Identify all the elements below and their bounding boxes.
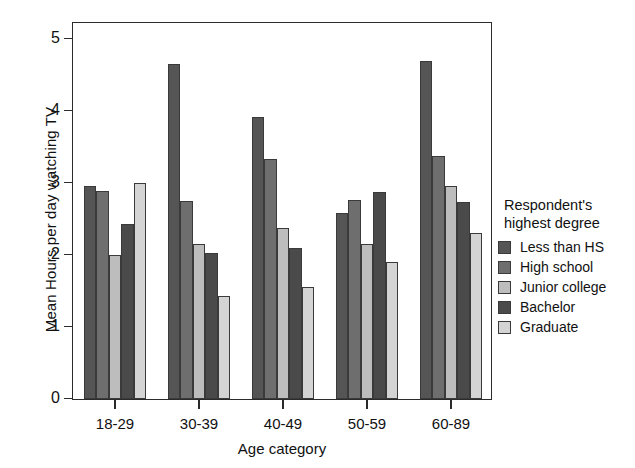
y-axis-tick-label: 5 xyxy=(51,28,60,48)
y-axis-tick-mark xyxy=(64,254,73,255)
x-axis-tick-label: 18-29 xyxy=(70,415,160,432)
y-axis-tick-mark xyxy=(64,182,73,183)
bar xyxy=(336,213,348,399)
bar xyxy=(348,200,360,399)
y-axis-tick-label: 0 xyxy=(51,388,60,408)
bar xyxy=(109,255,121,399)
bar xyxy=(218,296,230,399)
x-axis-tick-mark xyxy=(282,399,283,409)
legend-label: Less than HS xyxy=(520,239,604,255)
y-axis-tick-mark xyxy=(64,326,73,327)
x-axis-tick-mark xyxy=(198,399,199,409)
bar xyxy=(432,156,444,399)
y-axis-tick-label: 1 xyxy=(51,316,60,336)
bar xyxy=(457,202,469,399)
bar xyxy=(134,183,146,399)
legend-item: Junior college xyxy=(498,277,635,297)
y-axis-tick-mark xyxy=(64,38,73,39)
legend-items: Less than HSHigh schoolJunior collegeBac… xyxy=(498,237,635,337)
y-axis-tick-label: 4 xyxy=(51,100,60,120)
legend-swatch xyxy=(498,281,511,294)
legend-label: Bachelor xyxy=(520,299,575,315)
legend-swatch xyxy=(498,301,511,314)
bar xyxy=(386,262,398,399)
bar-chart-figure: Mean Hours per day watching TV 012345 18… xyxy=(0,0,635,468)
bar xyxy=(252,117,264,399)
bar xyxy=(193,244,205,399)
plot-area: 012345 18-2930-3940-4950-5960-89 xyxy=(72,22,492,400)
y-axis-tick-mark xyxy=(64,110,73,111)
legend-item: High school xyxy=(498,257,635,277)
bar xyxy=(445,186,457,399)
y-axis-tick-mark xyxy=(64,398,73,399)
legend-swatch xyxy=(498,241,511,254)
x-axis-tick-mark xyxy=(114,399,115,409)
bar xyxy=(420,61,432,399)
bar xyxy=(180,201,192,399)
bar xyxy=(264,159,276,399)
legend: Respondent's highest degree Less than HS… xyxy=(498,196,635,337)
legend-title-line-2: highest degree xyxy=(504,214,635,232)
x-axis-tick-label: 50-59 xyxy=(322,415,412,432)
legend-swatch xyxy=(498,321,511,334)
bar xyxy=(373,192,385,399)
y-axis-tick-label: 2 xyxy=(51,244,60,264)
legend-swatch xyxy=(498,261,511,274)
x-axis-tick-label: 60-89 xyxy=(406,415,496,432)
legend-item: Graduate xyxy=(498,317,635,337)
bar xyxy=(361,244,373,399)
x-axis-tick-label: 30-39 xyxy=(154,415,244,432)
y-axis-label: Mean Hours per day watching TV xyxy=(42,25,59,415)
legend-item: Less than HS xyxy=(498,237,635,257)
bar xyxy=(168,64,180,399)
x-axis-tick-mark xyxy=(366,399,367,409)
bar xyxy=(470,233,482,399)
x-axis-label: Age category xyxy=(72,440,492,457)
bar xyxy=(289,248,301,399)
legend-item: Bachelor xyxy=(498,297,635,317)
bar xyxy=(302,287,314,399)
bar xyxy=(277,228,289,399)
bar xyxy=(96,191,108,399)
bar xyxy=(205,253,217,399)
legend-label: Graduate xyxy=(520,319,578,335)
x-axis-tick-mark xyxy=(450,399,451,409)
bar xyxy=(121,224,133,399)
legend-label: Junior college xyxy=(520,279,606,295)
legend-label: High school xyxy=(520,259,593,275)
legend-title: Respondent's highest degree xyxy=(504,196,635,232)
x-axis-tick-label: 40-49 xyxy=(238,415,328,432)
legend-title-line-1: Respondent's xyxy=(504,196,635,214)
bar xyxy=(84,186,96,399)
y-axis-tick-label: 3 xyxy=(51,172,60,192)
